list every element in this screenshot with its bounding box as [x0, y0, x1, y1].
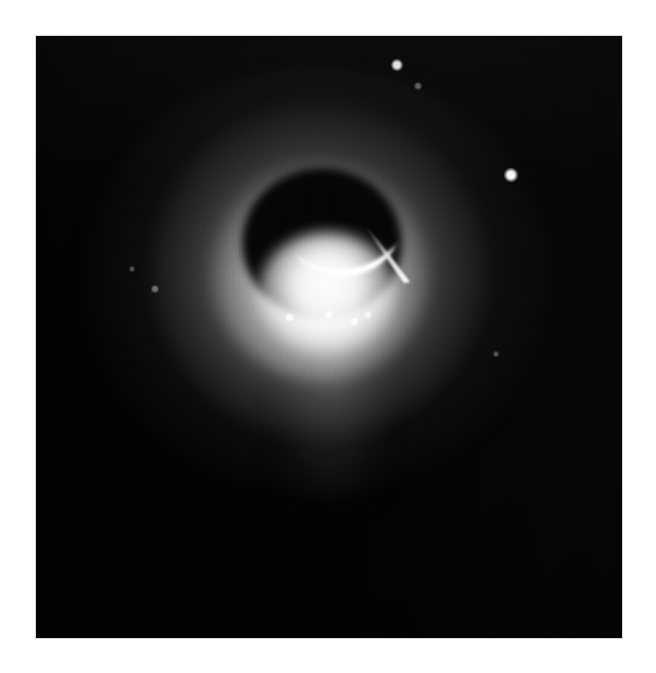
- eclipse-plate: [36, 36, 622, 638]
- plate-background: [36, 36, 622, 638]
- page-canvas: [0, 0, 656, 673]
